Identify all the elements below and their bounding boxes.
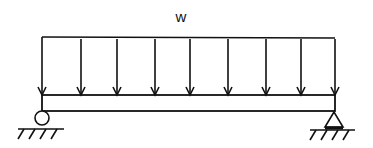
load-top-line: [42, 37, 335, 38]
beam-diagram: w: [0, 0, 373, 148]
pin-triangle-icon: [325, 112, 343, 127]
beam: [42, 95, 335, 111]
ground-hatch-right-icon: [310, 130, 349, 140]
load-arrow-icon: [38, 37, 46, 95]
right-pin-support: [310, 112, 355, 140]
roller-icon: [35, 111, 49, 125]
load-arrows: [38, 37, 339, 95]
load-arrow-icon: [151, 39, 159, 95]
load-arrow-icon: [262, 39, 270, 95]
load-arrow-icon: [186, 39, 194, 95]
load-arrow-icon: [77, 39, 85, 95]
load-arrow-icon: [224, 39, 232, 95]
left-roller-support: [18, 111, 64, 139]
ground-hatch-left-icon: [18, 129, 57, 139]
distributed-load: [38, 37, 339, 95]
beam-body: [42, 95, 335, 111]
load-label: w: [175, 8, 187, 25]
load-arrow-icon: [331, 39, 339, 95]
load-arrow-icon: [113, 39, 121, 95]
load-arrow-icon: [297, 39, 305, 95]
